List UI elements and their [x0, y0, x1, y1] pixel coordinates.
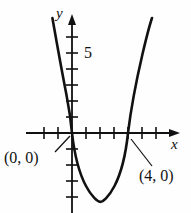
root-leader-line: [131, 139, 152, 166]
parabola-figure: y x 5 (0, 0) (4, 0): [0, 0, 191, 213]
y-tick-label-5: 5: [84, 45, 92, 61]
root-point-label: (4, 0): [139, 168, 174, 184]
y-axis-label: y: [56, 6, 63, 21]
y-axis-arrowhead: [68, 14, 76, 25]
parabola-curve: [52, 18, 152, 202]
origin-point-label: (0, 0): [4, 150, 39, 166]
x-axis-label: x: [171, 137, 178, 152]
